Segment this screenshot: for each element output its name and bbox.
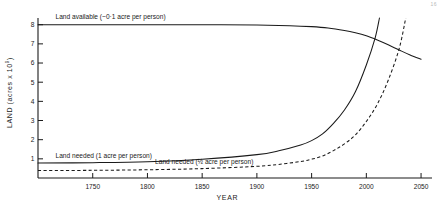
x-axis-title: YEAR: [217, 194, 238, 201]
x-tick-label: 1800: [140, 183, 155, 190]
x-tick-label: 2000: [359, 183, 374, 190]
land-needed-1acre-label: Land needed (1 acre per person): [56, 152, 152, 160]
y-axis-title-close: ): [6, 57, 14, 60]
series-line-2: [38, 18, 406, 171]
series-annotations-layer: Land available (~0·1 acre per person)Lan…: [56, 13, 254, 167]
x-tick-label: 1850: [195, 183, 210, 190]
series-line-1: [38, 18, 379, 163]
y-axis-title: LAND (acres x 109): [5, 57, 14, 128]
y-axis-title-main: LAND (acres x 10: [6, 63, 14, 128]
land-needed-half-acre-label: Land needed (½ acre per person): [155, 158, 253, 166]
x-tick-label: 1950: [304, 183, 319, 190]
x-axis-tick-labels: 1750180018501900195020002050: [85, 183, 428, 190]
y-tick-label: 1: [31, 155, 35, 162]
y-tick-label: 2: [31, 136, 35, 143]
y-axis-ticks: [38, 25, 43, 159]
x-tick-label: 2050: [414, 183, 429, 190]
series-line-0: [38, 25, 421, 60]
y-axis-tick-labels: 12345678: [31, 21, 35, 162]
y-tick-label: 5: [31, 79, 35, 86]
x-tick-label: 1750: [85, 183, 100, 190]
land-available-label: Land available (~0·1 acre per person): [56, 13, 166, 21]
y-tick-label: 8: [31, 21, 35, 28]
y-tick-label: 3: [31, 117, 35, 124]
x-tick-label: 1900: [250, 183, 265, 190]
x-axis-ticks: [93, 173, 421, 178]
y-tick-label: 7: [31, 40, 35, 47]
land-supply-demand-figure: 16 1750180018501900195020002050 12345678…: [0, 0, 441, 210]
y-tick-label: 4: [31, 98, 35, 105]
svg-text:LAND (acres x 109): LAND (acres x 109): [5, 57, 14, 128]
page-corner-mark: 16: [430, 1, 437, 7]
y-tick-label: 6: [31, 59, 35, 66]
chart-canvas: 1750180018501900195020002050 12345678 YE…: [0, 0, 441, 210]
data-series-layer: [38, 18, 421, 171]
